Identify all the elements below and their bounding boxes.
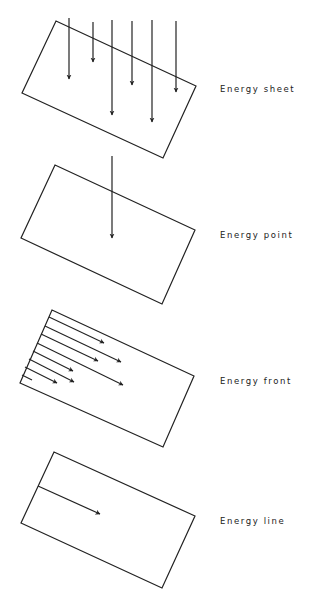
label-energy-point: Energy point bbox=[220, 230, 293, 240]
sheet-arrows bbox=[69, 18, 176, 122]
arrow-icon bbox=[29, 359, 74, 382]
arrow-icon bbox=[45, 326, 121, 362]
arrow-icon bbox=[25, 367, 57, 383]
label-energy-front: Energy front bbox=[220, 376, 292, 386]
arrow-icon bbox=[37, 343, 123, 385]
front-arrows bbox=[22, 317, 123, 385]
energy-sheet-panel bbox=[22, 18, 196, 158]
front-plane bbox=[20, 310, 194, 447]
label-energy-line: Energy line bbox=[220, 516, 285, 526]
energy-point-panel bbox=[21, 156, 195, 304]
energy-line-panel bbox=[21, 452, 195, 588]
point-plane bbox=[21, 165, 195, 304]
line-plane bbox=[21, 452, 195, 588]
front-line bbox=[22, 375, 32, 380]
arrow-icon bbox=[33, 351, 73, 371]
arrow-icon bbox=[38, 486, 100, 514]
energy-front-panel bbox=[20, 310, 194, 447]
sheet-plane bbox=[22, 21, 196, 158]
label-energy-sheet: Energy sheet bbox=[220, 84, 295, 94]
